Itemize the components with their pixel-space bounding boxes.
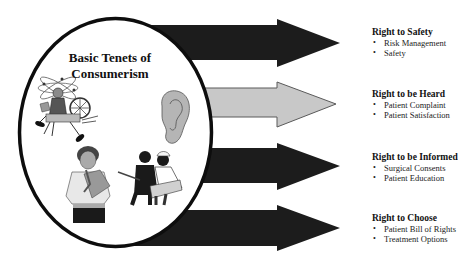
right-item: •Safety <box>372 48 452 58</box>
bullet-icon: • <box>373 173 376 183</box>
bullet-icon: • <box>373 234 376 244</box>
right-item: •Risk Management <box>372 38 452 48</box>
bullet-icon: • <box>373 48 376 58</box>
right-item: •Patient Education <box>372 173 452 183</box>
right-title: Right to be Heard <box>372 89 452 100</box>
hub-title-line1: Basic Tenets of <box>40 50 180 66</box>
bullet-icon: • <box>373 100 376 110</box>
right-title: Right to Safety <box>372 27 452 38</box>
right-item: •Patient Bill of Rights <box>372 224 452 234</box>
bullet-icon: • <box>373 38 376 48</box>
right-title: Right to be Informed <box>372 152 452 163</box>
hub-title: Basic Tenets of Consumerism <box>40 50 180 82</box>
right-to-safety-block: Right to Safety •Risk Management •Safety <box>372 27 452 58</box>
right-item: •Patient Complaint <box>372 100 452 110</box>
right-title: Right to Choose <box>372 213 452 224</box>
hub-title-line2: Consumerism <box>40 66 180 82</box>
bullet-icon: • <box>373 163 376 173</box>
bullet-icon: • <box>373 224 376 234</box>
bullet-icon: • <box>373 110 376 120</box>
right-to-choose-block: Right to Choose •Patient Bill of Rights … <box>372 213 452 244</box>
right-item: •Surgical Consents <box>372 163 452 173</box>
right-to-be-informed-block: Right to be Informed •Surgical Consents … <box>372 152 452 183</box>
right-to-be-heard-block: Right to be Heard •Patient Complaint •Pa… <box>372 89 452 120</box>
right-item: •Treatment Options <box>372 234 452 244</box>
right-item: •Patient Satisfaction <box>372 110 452 120</box>
